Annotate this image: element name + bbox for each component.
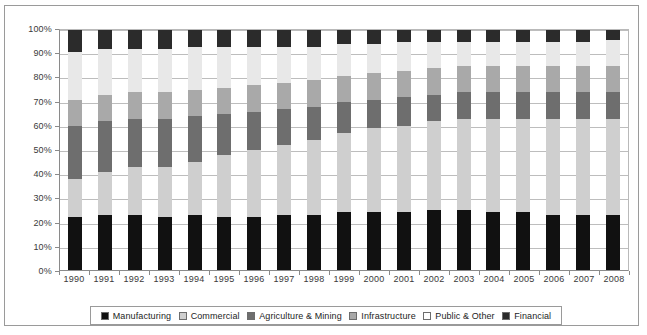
bar-slot[interactable]: [389, 30, 419, 270]
bar-segment[interactable]: [457, 66, 471, 92]
bar-segment[interactable]: [457, 119, 471, 210]
bar-slot[interactable]: [180, 30, 210, 270]
bar-segment[interactable]: [367, 212, 381, 270]
bar-segment[interactable]: [337, 133, 351, 212]
bar-segment[interactable]: [397, 71, 411, 97]
bar-segment[interactable]: [427, 68, 441, 94]
bar-segment[interactable]: [68, 30, 82, 52]
bar-segment[interactable]: [158, 30, 172, 49]
bar-slot[interactable]: [419, 30, 449, 270]
bar-segment[interactable]: [457, 92, 471, 118]
bar-slot[interactable]: [598, 30, 628, 270]
bar-segment[interactable]: [397, 126, 411, 212]
bar-segment[interactable]: [247, 150, 261, 217]
bar-segment[interactable]: [606, 66, 620, 92]
bar-segment[interactable]: [158, 92, 172, 118]
bar-segment[interactable]: [217, 217, 231, 270]
bar-slot[interactable]: [239, 30, 269, 270]
bar-segment[interactable]: [367, 100, 381, 129]
stacked-bar[interactable]: [68, 30, 82, 270]
bar-segment[interactable]: [217, 155, 231, 217]
bar-segment[interactable]: [397, 212, 411, 270]
bar-segment[interactable]: [337, 44, 351, 75]
bar-segment[interactable]: [546, 119, 560, 215]
bar-segment[interactable]: [98, 215, 112, 270]
bar-slot[interactable]: [90, 30, 120, 270]
legend-item-infrastructure[interactable]: Infrastructure: [349, 311, 415, 321]
bar-segment[interactable]: [68, 52, 82, 100]
stacked-bar[interactable]: [606, 30, 620, 270]
bar-segment[interactable]: [457, 210, 471, 270]
bar-segment[interactable]: [486, 212, 500, 270]
bar-segment[interactable]: [427, 121, 441, 210]
stacked-bar[interactable]: [546, 30, 560, 270]
stacked-bar[interactable]: [188, 30, 202, 270]
bar-segment[interactable]: [307, 107, 321, 141]
bar-slot[interactable]: [299, 30, 329, 270]
bar-segment[interactable]: [337, 30, 351, 44]
bar-segment[interactable]: [516, 66, 530, 92]
bar-segment[interactable]: [247, 30, 261, 47]
bar-segment[interactable]: [307, 140, 321, 214]
bar-segment[interactable]: [128, 167, 142, 215]
bar-segment[interactable]: [576, 42, 590, 66]
bar-slot[interactable]: [508, 30, 538, 270]
bar-segment[interactable]: [606, 40, 620, 66]
bar-segment[interactable]: [188, 30, 202, 47]
bar-segment[interactable]: [546, 66, 560, 92]
bar-segment[interactable]: [397, 97, 411, 126]
bar-slot[interactable]: [568, 30, 598, 270]
bar-segment[interactable]: [277, 109, 291, 145]
bar-segment[interactable]: [277, 30, 291, 47]
bar-segment[interactable]: [427, 95, 441, 121]
bar-slot[interactable]: [478, 30, 508, 270]
bar-segment[interactable]: [367, 73, 381, 99]
bar-segment[interactable]: [277, 47, 291, 83]
bar-segment[interactable]: [367, 128, 381, 212]
bar-segment[interactable]: [128, 92, 142, 118]
stacked-bar[interactable]: [98, 30, 112, 270]
bar-segment[interactable]: [397, 42, 411, 71]
stacked-bar[interactable]: [307, 30, 321, 270]
bar-segment[interactable]: [516, 30, 530, 42]
bar-segment[interactable]: [576, 215, 590, 270]
bar-segment[interactable]: [217, 30, 231, 47]
bar-segment[interactable]: [546, 30, 560, 42]
bar-segment[interactable]: [486, 42, 500, 66]
bar-segment[interactable]: [158, 119, 172, 167]
bar-segment[interactable]: [427, 30, 441, 42]
bar-segment[interactable]: [188, 116, 202, 162]
bar-segment[interactable]: [68, 100, 82, 126]
bar-segment[interactable]: [516, 42, 530, 66]
stacked-bar[interactable]: [128, 30, 142, 270]
bar-segment[interactable]: [427, 42, 441, 68]
legend-item-manufacturing[interactable]: Manufacturing: [101, 311, 171, 321]
bar-segment[interactable]: [217, 114, 231, 155]
bar-segment[interactable]: [188, 47, 202, 90]
bar-segment[interactable]: [606, 119, 620, 215]
stacked-bar[interactable]: [337, 30, 351, 270]
bar-segment[interactable]: [367, 30, 381, 44]
bar-segment[interactable]: [606, 92, 620, 118]
bar-segment[interactable]: [98, 49, 112, 95]
bar-segment[interactable]: [516, 119, 530, 213]
bar-segment[interactable]: [98, 95, 112, 121]
bar-segment[interactable]: [277, 145, 291, 215]
bar-slot[interactable]: [538, 30, 568, 270]
bar-segment[interactable]: [457, 30, 471, 42]
bar-segment[interactable]: [158, 167, 172, 217]
bar-slot[interactable]: [60, 30, 90, 270]
bar-segment[interactable]: [337, 212, 351, 270]
bar-segment[interactable]: [576, 66, 590, 92]
legend-item-financial[interactable]: Financial: [502, 311, 551, 321]
stacked-bar[interactable]: [486, 30, 500, 270]
bar-segment[interactable]: [68, 179, 82, 217]
bar-segment[interactable]: [606, 30, 620, 40]
bar-segment[interactable]: [486, 66, 500, 92]
bar-segment[interactable]: [128, 119, 142, 167]
stacked-bar[interactable]: [367, 30, 381, 270]
bar-segment[interactable]: [128, 49, 142, 92]
bar-segment[interactable]: [277, 83, 291, 109]
bar-segment[interactable]: [427, 210, 441, 270]
bar-segment[interactable]: [217, 47, 231, 88]
